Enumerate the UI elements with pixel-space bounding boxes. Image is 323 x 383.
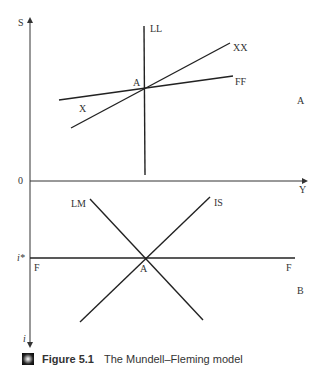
figure-caption: Figure 5.1 The Mundell–Fleming model	[22, 353, 243, 365]
is-label: IS	[214, 197, 223, 208]
origin-label: 0	[18, 175, 23, 186]
lm-label: LM	[71, 198, 86, 209]
f-right-label: F	[286, 262, 292, 273]
panel-a-label: A	[297, 95, 305, 106]
figure-bullet-icon	[22, 353, 34, 365]
y-axis-label: Y	[299, 184, 306, 195]
ll-label: LL	[150, 23, 162, 34]
f-left-label: F	[34, 262, 40, 273]
xx-label: XX	[233, 42, 248, 53]
figure-number: Figure 5.1	[42, 353, 94, 365]
x-label: X	[79, 103, 87, 114]
ff-label: FF	[235, 76, 247, 87]
is-curve	[80, 197, 210, 322]
panel-b-label: B	[297, 285, 304, 296]
mundell-fleming-diagram: S 0 Y LL XX FF X A A LM IS F F i* A B i	[0, 0, 323, 383]
i-star-label: i*	[17, 252, 25, 263]
equilibrium-b-label: A	[140, 263, 148, 274]
s-axis-label: S	[18, 17, 24, 28]
xx-curve	[71, 43, 230, 128]
ff-curve	[59, 76, 233, 100]
figure-title: The Mundell–Fleming model	[104, 353, 243, 365]
equilibrium-a-label: A	[133, 77, 141, 88]
i-axis-label: i	[23, 333, 26, 344]
ll-curve	[144, 26, 145, 175]
lm-curve	[90, 199, 203, 320]
